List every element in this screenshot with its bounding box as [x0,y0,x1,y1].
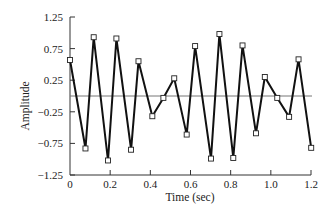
data-point-marker [68,57,73,62]
y-tick-label: 0.75 [44,43,64,55]
data-point-marker [309,145,314,150]
data-point-marker [231,155,236,160]
y-tick-label: −0.75 [38,137,64,149]
data-point-marker [184,132,189,137]
data-point-marker [262,75,267,80]
data-point-marker [275,95,280,100]
data-point-marker [136,59,141,64]
data-point-marker [193,44,198,49]
x-tick-label: 0.8 [224,178,238,190]
data-point-marker [296,57,301,62]
x-tick-label: 1.2 [304,178,318,190]
x-tick-label: 0 [67,178,73,190]
y-tick-label: −0.25 [38,106,64,118]
y-tick-label: −1.25 [38,169,64,181]
data-point-marker [105,158,110,163]
x-tick-label: 0.6 [184,178,198,190]
data-point-marker [161,95,166,100]
data-point-marker [208,156,213,161]
x-tick-label: 0.4 [143,178,157,190]
data-point-marker [114,36,119,41]
y-tick-label: 1.25 [44,11,64,23]
data-point-marker [240,43,245,48]
x-axis-label: Time (sec) [165,191,214,204]
data-point-marker [129,147,134,152]
amplitude-time-chart: 1.250.750.25−0.25−0.75−1.2500.20.40.60.8… [0,0,333,212]
data-point-marker [150,114,155,119]
data-point-marker [91,35,96,40]
data-point-marker [287,114,292,119]
data-point-marker [217,32,222,37]
chart-canvas: 1.250.750.25−0.25−0.75−1.2500.20.40.60.8… [0,0,333,212]
x-tick-label: 1.0 [264,178,278,190]
data-point-marker [172,76,177,81]
y-axis-label: Amplitude [19,81,32,130]
data-point-marker [83,146,88,151]
y-tick-label: 0.25 [44,74,64,86]
x-tick-label: 0.2 [103,178,117,190]
data-series [68,32,314,163]
data-point-marker [253,131,258,136]
